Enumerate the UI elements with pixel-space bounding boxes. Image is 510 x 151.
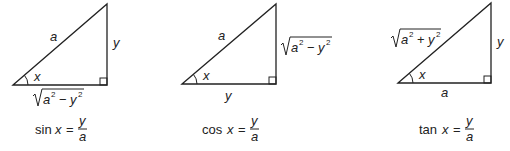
svg-text:a: a xyxy=(466,129,473,144)
svg-text:2: 2 xyxy=(78,90,83,99)
angle-label: x xyxy=(202,68,210,83)
svg-text:=: = xyxy=(66,122,74,137)
svg-text:=: = xyxy=(238,122,246,137)
svg-text:tan: tan xyxy=(419,122,437,137)
angle-arc xyxy=(24,75,28,85)
svg-text:2: 2 xyxy=(436,30,441,39)
tangent-triangle xyxy=(398,3,491,83)
adjacent-label-sqrt: a 2 − y 2 xyxy=(33,89,84,107)
angle-arc xyxy=(193,74,197,84)
angle-label: x xyxy=(418,67,426,82)
svg-text:x: x xyxy=(226,122,234,137)
svg-text:a: a xyxy=(291,40,298,55)
opposite-label: y xyxy=(496,34,505,49)
svg-text:x: x xyxy=(54,122,62,137)
sine-triangle xyxy=(13,4,107,85)
svg-text:−: − xyxy=(307,40,315,55)
svg-text:sin: sin xyxy=(35,122,52,137)
right-angle-mark xyxy=(269,77,276,84)
adjacent-label: a xyxy=(441,85,448,100)
svg-text:2: 2 xyxy=(299,38,304,47)
svg-text:a: a xyxy=(43,92,50,107)
svg-text:cos: cos xyxy=(202,122,223,137)
svg-text:2: 2 xyxy=(409,30,414,39)
right-angle-mark xyxy=(100,78,107,85)
svg-text:a: a xyxy=(79,129,86,144)
trig-diagrams: x a y a 2 − y 2 sin x = y a x a y xyxy=(0,0,510,151)
tangent-formula: tan x = y a xyxy=(419,113,474,144)
svg-text:y: y xyxy=(427,32,436,47)
svg-text:y: y xyxy=(250,113,259,128)
svg-text:−: − xyxy=(59,92,67,107)
opposite-label-sqrt: a 2 − y 2 xyxy=(281,37,332,55)
svg-text:x: x xyxy=(441,122,449,137)
svg-text:+: + xyxy=(417,32,425,47)
right-angle-mark xyxy=(484,76,491,83)
svg-text:2: 2 xyxy=(51,90,56,99)
svg-text:y: y xyxy=(317,40,326,55)
angle-label: x xyxy=(33,69,41,84)
svg-text:a: a xyxy=(251,129,258,144)
svg-text:y: y xyxy=(78,113,87,128)
svg-text:y: y xyxy=(465,113,474,128)
cosine-triangle xyxy=(182,4,276,84)
cosine-formula: cos x = y a xyxy=(202,113,259,144)
sine-diagram: x a y a 2 − y 2 sin x = y a xyxy=(13,4,121,144)
hypotenuse-label: a xyxy=(218,28,225,43)
adjacent-label: y xyxy=(224,88,233,103)
svg-text:a: a xyxy=(401,32,408,47)
hypotenuse-label-sqrt: a 2 + y 2 xyxy=(391,29,441,47)
svg-text:2: 2 xyxy=(326,38,331,47)
tangent-diagram: x y a a 2 + y 2 tan x = y a xyxy=(391,3,505,144)
svg-text:=: = xyxy=(453,122,461,137)
opposite-label: y xyxy=(112,35,121,50)
hypotenuse-label: a xyxy=(50,29,57,44)
angle-arc xyxy=(409,73,413,83)
cosine-diagram: x a y a 2 − y 2 cos x = y a xyxy=(182,4,332,144)
svg-text:y: y xyxy=(69,92,78,107)
sine-formula: sin x = y a xyxy=(35,113,87,144)
